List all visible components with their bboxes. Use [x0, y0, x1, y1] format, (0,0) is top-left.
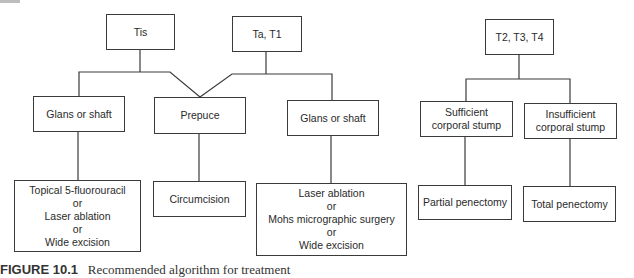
treatment-line: Topical 5-fluorouracil — [29, 184, 125, 197]
treatment-total-penectomy-box: Total penectomy — [523, 186, 616, 222]
figure-caption: FIGURE 10.1 Recommended algorithm for tr… — [0, 262, 290, 278]
stage-t2-t4-label: T2, T3, T4 — [495, 31, 543, 44]
stage-t2-t4-box: T2, T3, T4 — [485, 19, 554, 55]
figure-caption-text: Recommended algorithm for treatment — [88, 262, 291, 277]
treatment-line: Mohs micrographic surgery — [268, 213, 395, 226]
insufficient-line-2: corporal stump — [536, 121, 605, 134]
sufficient-line-1: Sufficient — [445, 106, 488, 119]
site-glans-left-label: Glans or shaft — [46, 108, 111, 121]
stage-tis-label: Tis — [134, 26, 148, 39]
treatment-circumcision-box: Circumcision — [153, 181, 246, 217]
treatment-total-penectomy-label: Total penectomy — [531, 198, 607, 211]
treatment-partial-penectomy-label: Partial penectomy — [423, 196, 507, 209]
treatment-or: or — [73, 197, 82, 210]
insufficient-line-1: Insufficient — [545, 108, 595, 121]
site-prepuce-box: Prepuce — [154, 97, 246, 134]
stage-ta-t1-label: Ta, T1 — [253, 28, 282, 41]
treatment-line: Wide excision — [299, 239, 364, 252]
site-glans-right-box: Glans or shaft — [287, 100, 379, 136]
stage-tis-box: Tis — [106, 14, 175, 50]
site-glans-right-label: Glans or shaft — [300, 112, 365, 125]
treatment-or: or — [73, 223, 82, 236]
treatment-circumcision-label: Circumcision — [169, 193, 229, 206]
treatment-line: Wide excision — [45, 236, 110, 249]
treatment-line: Laser ablation — [299, 187, 365, 200]
treatment-t1-glans-box: Laser ablation or Mohs micrographic surg… — [256, 183, 407, 256]
figure-label: FIGURE 10.1 — [0, 262, 78, 277]
treatment-or: or — [327, 200, 336, 213]
site-insufficient-stump-box: Insufficient corporal stump — [524, 103, 617, 139]
sufficient-line-2: corporal stump — [432, 119, 501, 132]
treatment-or: or — [327, 226, 336, 239]
site-sufficient-stump-box: Sufficient corporal stump — [420, 101, 513, 137]
treatment-tis-glans-box: Topical 5-fluorouracil or Laser ablation… — [14, 180, 141, 252]
treatment-line: Laser ablation — [45, 210, 111, 223]
treatment-partial-penectomy-box: Partial penectomy — [418, 185, 512, 220]
site-prepuce-label: Prepuce — [180, 109, 219, 122]
stage-ta-t1-box: Ta, T1 — [232, 16, 302, 52]
site-glans-left-box: Glans or shaft — [33, 96, 125, 132]
